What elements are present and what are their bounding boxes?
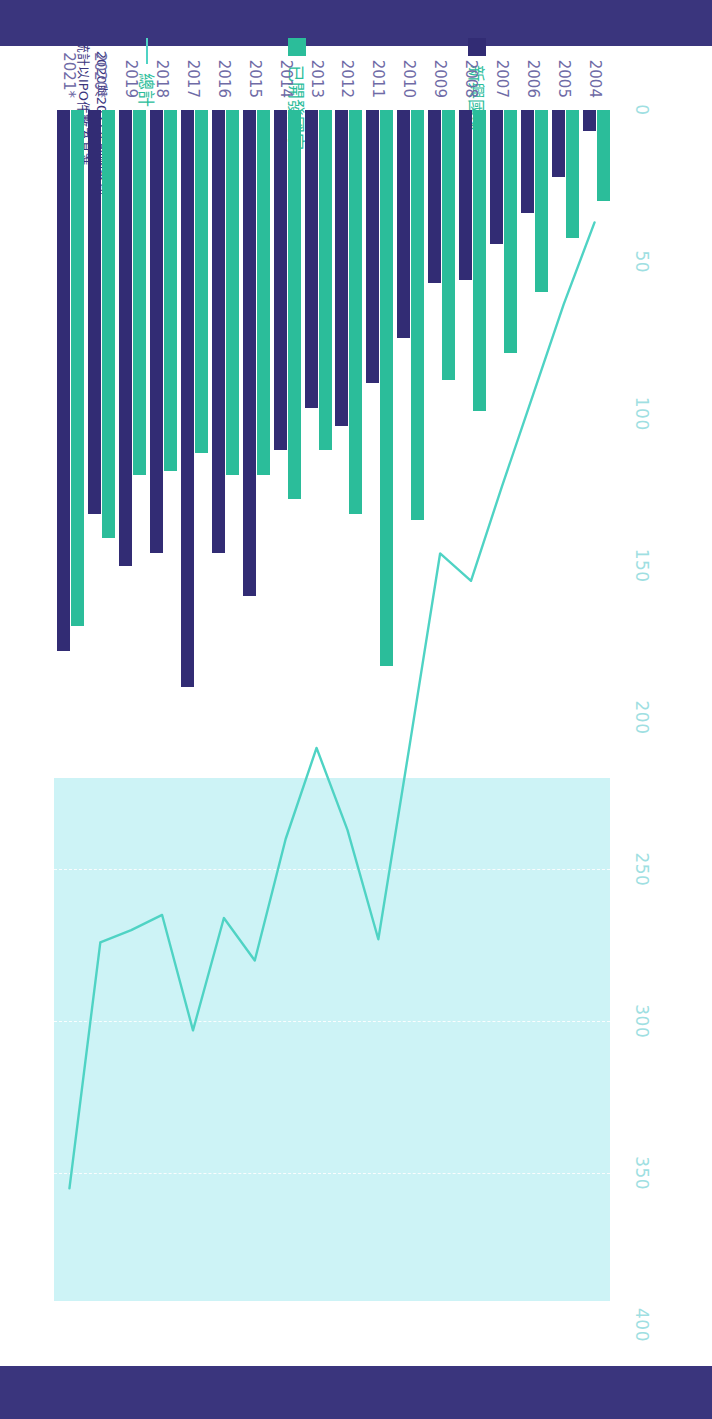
year-label: 2008 bbox=[462, 59, 480, 103]
bar-emerging bbox=[243, 110, 256, 596]
bar-emerging bbox=[459, 110, 472, 280]
bar-developed bbox=[288, 110, 301, 499]
year-label: 2021* bbox=[60, 52, 78, 104]
bar-row: 2013 bbox=[301, 110, 332, 1325]
bar-developed bbox=[535, 110, 548, 292]
bar-developed bbox=[473, 110, 486, 411]
bar-emerging bbox=[583, 110, 596, 131]
x-tick-label: 50 bbox=[632, 250, 652, 273]
year-label: 2019 bbox=[122, 59, 140, 103]
bar-row: 2010 bbox=[394, 110, 425, 1325]
year-label: 2020* bbox=[91, 52, 109, 104]
bar-developed bbox=[257, 110, 270, 475]
year-label: 2016 bbox=[215, 59, 233, 103]
bar-emerging bbox=[490, 110, 503, 244]
year-label: 2009 bbox=[431, 59, 449, 103]
bar-rows: 2004200520062007200820092010201120122013… bbox=[54, 110, 610, 1325]
legend-line-swatch bbox=[147, 38, 149, 64]
bar-emerging bbox=[274, 110, 287, 450]
bar-developed bbox=[226, 110, 239, 475]
bar-developed bbox=[411, 110, 424, 520]
bar-row: 2014 bbox=[270, 110, 301, 1325]
year-label: 2010 bbox=[400, 59, 418, 103]
bar-developed bbox=[349, 110, 362, 514]
x-tick-label: 0 bbox=[632, 104, 652, 115]
bar-row: 2004 bbox=[579, 110, 610, 1325]
bar-emerging bbox=[366, 110, 379, 383]
bar-developed bbox=[133, 110, 146, 475]
bar-row: 2017 bbox=[178, 110, 209, 1325]
bar-row: 2015 bbox=[239, 110, 270, 1325]
x-axis-ticks: 050100150200250300350400 bbox=[612, 110, 676, 1325]
bar-emerging bbox=[119, 110, 132, 566]
bar-emerging bbox=[521, 110, 534, 213]
bar-row: 2020* bbox=[85, 110, 116, 1325]
bar-emerging bbox=[552, 110, 565, 177]
legend-square-swatch bbox=[469, 38, 487, 56]
bar-developed bbox=[102, 110, 115, 538]
bar-emerging bbox=[212, 110, 225, 553]
year-label: 2007 bbox=[493, 59, 511, 103]
year-label: 2015 bbox=[246, 59, 264, 103]
bar-row: 2009 bbox=[425, 110, 456, 1325]
year-label: 2005 bbox=[555, 59, 573, 103]
bar-row: 2012 bbox=[332, 110, 363, 1325]
x-tick-label: 200 bbox=[632, 700, 652, 734]
bar-emerging bbox=[397, 110, 410, 338]
bar-developed bbox=[71, 110, 84, 626]
year-label: 2011 bbox=[369, 59, 387, 103]
year-label: 2006 bbox=[524, 59, 542, 103]
bar-emerging bbox=[181, 110, 194, 687]
bar-emerging bbox=[150, 110, 163, 553]
bar-emerging bbox=[88, 110, 101, 514]
year-label: 2018 bbox=[153, 59, 171, 103]
year-label: 2004 bbox=[586, 59, 604, 103]
bar-row: 2016 bbox=[208, 110, 239, 1325]
x-tick-label: 350 bbox=[632, 1156, 652, 1190]
chart-stage: 050100150200250300350400 新興國家已開發國家總計 * 2… bbox=[36, 40, 676, 1380]
bar-developed bbox=[442, 110, 455, 380]
bar-developed bbox=[504, 110, 517, 353]
x-tick-label: 150 bbox=[632, 548, 652, 582]
x-tick-label: 250 bbox=[632, 852, 652, 886]
bar-developed bbox=[319, 110, 332, 450]
bar-emerging bbox=[305, 110, 318, 408]
x-tick-label: 100 bbox=[632, 396, 652, 430]
bar-emerging bbox=[57, 110, 70, 651]
plot-area: 2004200520062007200820092010201120122013… bbox=[54, 110, 610, 1325]
bar-developed bbox=[164, 110, 177, 471]
bar-row: 2006 bbox=[517, 110, 548, 1325]
year-label: 2017 bbox=[184, 59, 202, 103]
x-tick-label: 300 bbox=[632, 1004, 652, 1038]
chart-page: 050100150200250300350400 新興國家已開發國家總計 * 2… bbox=[0, 0, 712, 1419]
x-tick-label: 400 bbox=[632, 1308, 652, 1342]
legend-square-swatch bbox=[289, 38, 307, 56]
bar-row: 2008 bbox=[456, 110, 487, 1325]
bar-emerging bbox=[428, 110, 441, 283]
bar-row: 2019 bbox=[116, 110, 147, 1325]
bar-developed bbox=[597, 110, 610, 201]
bar-row: 2007 bbox=[486, 110, 517, 1325]
bar-row: 2011 bbox=[363, 110, 394, 1325]
bar-developed bbox=[566, 110, 579, 238]
bar-developed bbox=[380, 110, 393, 666]
bar-developed bbox=[195, 110, 208, 453]
bar-emerging bbox=[335, 110, 348, 426]
bar-row: 2018 bbox=[147, 110, 178, 1325]
bar-row: 2005 bbox=[548, 110, 579, 1325]
year-label: 2014 bbox=[277, 59, 295, 103]
year-label: 2012 bbox=[338, 59, 356, 103]
bar-row: 2021* bbox=[54, 110, 85, 1325]
year-label: 2013 bbox=[308, 59, 326, 103]
